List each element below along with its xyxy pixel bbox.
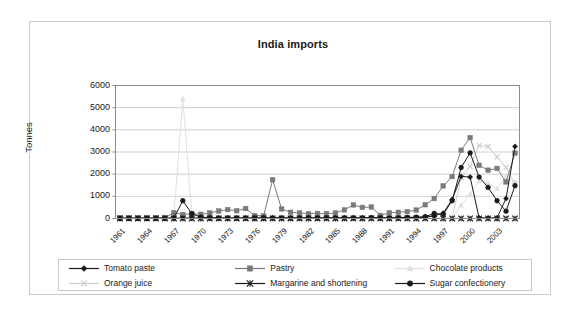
data-point-square xyxy=(360,205,365,210)
y-tick-label: 1000 xyxy=(60,190,110,200)
series-pastry xyxy=(118,135,518,220)
y-tick-label: 0 xyxy=(60,213,110,223)
star-marker-icon xyxy=(233,277,267,290)
data-point-square xyxy=(387,210,392,215)
data-point-square xyxy=(468,135,473,140)
data-point-circle xyxy=(486,185,491,190)
data-point-circle xyxy=(495,198,500,203)
data-point-circle xyxy=(504,209,509,214)
data-point-diamond xyxy=(512,144,517,149)
y-tick-label: 3000 xyxy=(60,146,110,156)
chart-legend: Tomato pastePastryChocolate products Ora… xyxy=(58,259,532,291)
data-point-x xyxy=(495,154,500,159)
y-tick-label: 5000 xyxy=(60,102,110,112)
data-point-circle xyxy=(513,183,518,188)
y-tick-label: 2000 xyxy=(60,168,110,178)
data-point-diamond xyxy=(81,266,87,272)
data-point-square xyxy=(333,211,338,216)
data-point-square xyxy=(477,163,482,168)
legend-item-chocolate-products[interactable]: Chocolate products xyxy=(393,261,531,276)
data-point-square xyxy=(342,208,347,213)
data-point-square xyxy=(459,148,464,153)
data-point-square xyxy=(315,211,320,216)
data-point-square xyxy=(248,266,253,271)
data-point-square xyxy=(423,202,428,207)
triangle-marker-icon xyxy=(393,262,427,275)
legend-label: Sugar confectionery xyxy=(430,279,506,288)
legend-label: Pastry xyxy=(270,264,294,273)
y-tick-label: 4000 xyxy=(60,124,110,134)
data-series-group xyxy=(117,96,518,221)
legend-item-pastry[interactable]: Pastry xyxy=(233,261,392,276)
chart-figure: India imports Tonnes 0100020003000400050… xyxy=(0,0,586,319)
data-point-square xyxy=(216,209,221,214)
x-marker-icon xyxy=(67,277,101,290)
legend-row: Orange juiceMargarine and shorteningSuga… xyxy=(59,276,531,291)
square-marker-icon xyxy=(233,262,267,275)
series-chocolate-products xyxy=(117,96,517,220)
data-point-x xyxy=(504,165,509,170)
legend-row: Tomato pastePastryChocolate products xyxy=(59,261,531,276)
legend-label: Orange juice xyxy=(104,279,152,288)
data-point-diamond xyxy=(468,174,473,179)
data-point-square xyxy=(279,207,284,212)
data-point-square xyxy=(270,177,275,182)
data-point-square xyxy=(225,207,230,212)
data-point-circle xyxy=(180,198,185,203)
data-point-square xyxy=(297,211,302,216)
data-point-square xyxy=(396,210,401,215)
data-point-circle xyxy=(477,175,482,180)
data-point-square xyxy=(495,166,500,171)
data-point-circle xyxy=(407,281,413,287)
data-point-square xyxy=(504,180,509,185)
legend-item-sugar-confectionery[interactable]: Sugar confectionery xyxy=(393,276,531,291)
circle-marker-icon xyxy=(393,277,427,290)
data-point-square xyxy=(432,196,437,201)
data-point-circle xyxy=(468,150,473,155)
legend-label: Margarine and shortening xyxy=(270,279,367,288)
data-point-square xyxy=(405,209,410,214)
data-point-x xyxy=(468,164,473,169)
data-point-square xyxy=(441,184,446,189)
data-point-square xyxy=(234,208,239,213)
legend-item-orange-juice[interactable]: Orange juice xyxy=(59,276,233,291)
data-point-square xyxy=(288,210,293,215)
data-point-square xyxy=(351,203,356,208)
legend-label: Chocolate products xyxy=(430,264,503,273)
diamond-marker-icon xyxy=(67,262,101,275)
legend-item-margarine-and-shortening[interactable]: Margarine and shortening xyxy=(233,276,392,291)
series-line xyxy=(120,153,515,218)
data-point-square xyxy=(207,211,212,216)
data-point-square xyxy=(450,174,455,179)
legend-label: Tomato paste xyxy=(104,264,155,273)
data-point-square xyxy=(414,208,419,213)
data-point-triangle xyxy=(180,96,185,101)
legend-item-tomato-paste[interactable]: Tomato paste xyxy=(59,261,233,276)
data-point-square xyxy=(486,168,491,173)
data-point-square xyxy=(243,206,248,211)
y-tick-label: 6000 xyxy=(60,80,110,90)
data-point-circle xyxy=(459,165,464,170)
data-point-square xyxy=(369,205,374,210)
